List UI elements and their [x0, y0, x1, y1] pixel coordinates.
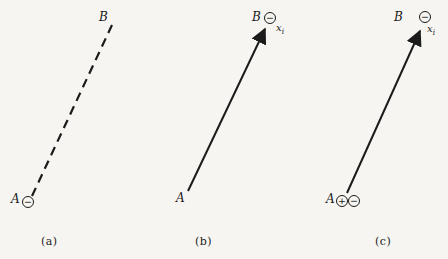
minus-sign: − — [421, 12, 429, 22]
i-subscript: i — [433, 28, 435, 37]
panel-b-charge-minus: − — [264, 12, 276, 24]
minus-sign: − — [266, 13, 274, 23]
panel-a-dashed-line — [32, 25, 112, 196]
panel-c-arrow-line — [347, 31, 420, 193]
panel-c-caption: (c) — [375, 236, 391, 248]
panel-a-point-b-label: B — [99, 11, 108, 23]
panel-a-point-a-label: A — [11, 193, 20, 205]
panel-b-caption: (b) — [195, 236, 212, 248]
panel-b-xi-label: xi — [276, 23, 284, 37]
panel-c-charge-minus-top: − — [419, 11, 431, 23]
plus-sign: + — [338, 196, 346, 206]
minus-sign: − — [24, 197, 32, 207]
panel-b-point-a-label: A — [176, 192, 185, 204]
minus-sign: − — [350, 196, 358, 206]
i-subscript: i — [282, 27, 284, 36]
panel-c-point-a-label: A — [326, 193, 335, 205]
panel-c-charge-plus: + — [336, 195, 348, 207]
panel-b-arrow-line — [188, 29, 265, 191]
panel-a-caption: (a) — [41, 236, 58, 248]
panel-b-point-b-label: B — [252, 11, 261, 23]
panel-c-point-b-label: B — [394, 11, 403, 23]
panel-c-charge-minus: − — [348, 195, 360, 207]
panel-a-charge-minus: − — [22, 196, 34, 208]
figure-canvas: A − B (a) A B − xi (b) A + − B − xi (c) — [0, 0, 448, 259]
figure-lines — [0, 0, 448, 259]
panel-c-xi-label: xi — [427, 24, 435, 38]
